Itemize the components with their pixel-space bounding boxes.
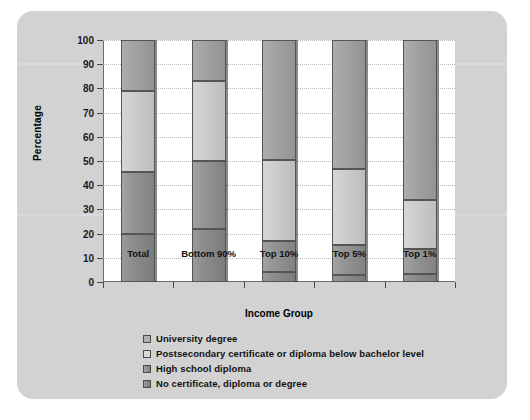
bar-segment[interactable] — [121, 172, 155, 234]
x-axis-tick — [385, 282, 386, 288]
legend-label-university-degree: University degree — [156, 333, 237, 344]
legend-item-high-school-diploma: High school diploma — [143, 361, 424, 376]
y-axis-tick-label: 90 — [83, 59, 94, 70]
legend-item-university-degree: University degree — [143, 331, 424, 346]
legend-item-no-certificate: No certificate, diploma or degree — [143, 376, 424, 391]
legend-swatch-icon-no-certificate — [143, 380, 151, 388]
x-axis-tick — [455, 282, 456, 288]
plot-area: 0102030405060708090100 — [103, 40, 455, 282]
x-axis-tick — [103, 282, 104, 288]
bar-group — [385, 40, 455, 282]
stacked-bar[interactable] — [262, 40, 296, 282]
y-axis-tick-label: 20 — [83, 228, 94, 239]
legend-item-postsecondary-certificate: Postsecondary certificate or diploma bel… — [143, 346, 424, 361]
bar-group — [103, 40, 173, 282]
bar-segment[interactable] — [332, 169, 366, 244]
stacked-bar[interactable] — [403, 40, 437, 282]
y-axis-tick-label: 60 — [83, 131, 94, 142]
stacked-bar[interactable] — [332, 40, 366, 282]
x-axis-tick-label: Top 5% — [333, 248, 366, 259]
x-axis-title: Income Group — [103, 308, 455, 319]
legend-label-high-school-diploma: High school diploma — [156, 363, 251, 374]
y-axis-tick-label: 40 — [83, 180, 94, 191]
legend-swatch-icon-university-degree — [143, 335, 151, 343]
bar-group — [173, 40, 243, 282]
x-axis-tick — [314, 282, 315, 288]
bar-segment[interactable] — [192, 81, 226, 161]
y-axis-tick-label: 80 — [83, 83, 94, 94]
y-axis-tick-label: 70 — [83, 107, 94, 118]
y-axis-title: Percentage — [32, 105, 43, 161]
bar-segment[interactable] — [403, 40, 437, 200]
bar-segment[interactable] — [192, 40, 226, 81]
bar-segment[interactable] — [403, 200, 437, 250]
stacked-bar[interactable] — [121, 40, 155, 282]
y-axis-tick-label: 100 — [77, 35, 94, 46]
x-axis-tick-label: Top 1% — [403, 248, 436, 259]
x-axis-tick-label: Total — [127, 248, 149, 259]
legend: University degree Postsecondary certific… — [143, 331, 424, 391]
y-axis-tick-label: 30 — [83, 204, 94, 215]
bar-group — [314, 40, 384, 282]
x-axis-tick-label: Top 10% — [260, 248, 298, 259]
x-axis-tick — [173, 282, 174, 288]
bar-segment[interactable] — [192, 161, 226, 229]
legend-swatch-icon-postsecondary-certificate — [143, 350, 151, 358]
legend-label-no-certificate: No certificate, diploma or degree — [156, 378, 307, 389]
bar-segment[interactable] — [332, 40, 366, 169]
y-axis-tick-label: 10 — [83, 252, 94, 263]
x-axis-tick-label: Bottom 90% — [181, 248, 236, 259]
bar-group — [244, 40, 314, 282]
bar-segment[interactable] — [262, 40, 296, 160]
legend-label-postsecondary-certificate: Postsecondary certificate or diploma bel… — [156, 348, 424, 359]
bar-segment[interactable] — [262, 160, 296, 241]
figure: Percentage Income Group 0102030405060708… — [0, 0, 530, 420]
legend-swatch-icon-high-school-diploma — [143, 365, 151, 373]
bar-segment[interactable] — [332, 275, 366, 282]
y-axis-tick-label: 0 — [88, 277, 94, 288]
bar-segment[interactable] — [262, 272, 296, 282]
y-axis-tick-label: 50 — [83, 156, 94, 167]
bar-segment[interactable] — [121, 40, 155, 91]
bar-segment[interactable] — [403, 274, 437, 282]
stacked-bar[interactable] — [192, 40, 226, 282]
bar-segment[interactable] — [121, 91, 155, 172]
x-axis-tick — [244, 282, 245, 288]
